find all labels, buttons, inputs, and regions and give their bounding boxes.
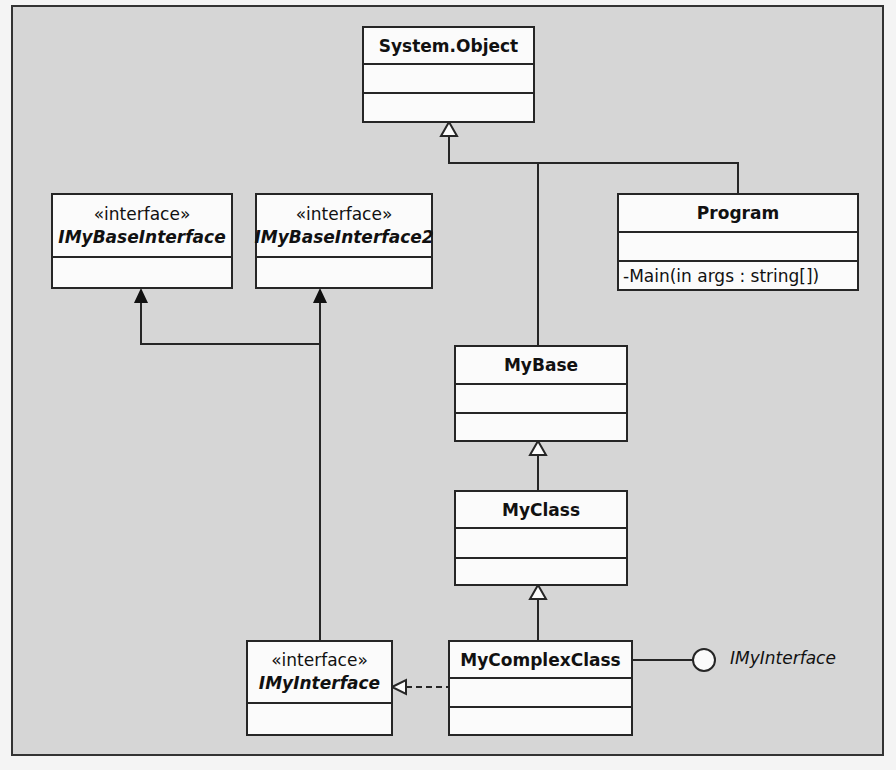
class-system-object[interactable]: System.Object	[362, 26, 535, 123]
class-name: MyComplexClass	[460, 650, 620, 670]
class-mybase[interactable]: MyBase	[454, 345, 628, 442]
attributes-compartment	[364, 65, 533, 94]
operations-compartment	[257, 258, 431, 287]
class-myclass[interactable]: MyClass	[454, 490, 628, 586]
class-name: Program	[697, 203, 779, 223]
operations-compartment	[53, 258, 231, 287]
stereotype-label: «interface»	[271, 649, 368, 671]
hollow-triangle-arrow-icon	[441, 122, 457, 136]
attributes-compartment	[456, 529, 626, 559]
attributes-compartment	[456, 385, 626, 414]
class-name: System.Object	[379, 36, 518, 56]
operations-compartment	[364, 94, 533, 121]
interface-name: IMyInterface	[259, 671, 380, 695]
hollow-triangle-arrow-icon	[530, 441, 546, 455]
class-name: MyBase	[504, 355, 578, 375]
interface-name: IMyBaseInterface2	[254, 225, 433, 249]
lollipop-interface-label: IMyInterface	[730, 648, 836, 668]
attributes-compartment	[619, 233, 857, 262]
interface-imybaseinterface[interactable]: «interface» IMyBaseInterface	[51, 193, 233, 289]
interface-imybaseinterface2[interactable]: «interface» IMyBaseInterface2	[255, 193, 433, 289]
hollow-triangle-arrow-icon	[392, 680, 406, 694]
operations-compartment	[456, 559, 626, 584]
operation-main: -Main(in args : string[])	[619, 262, 857, 289]
stereotype-label: «interface»	[94, 203, 191, 225]
interface-name: IMyBaseInterface	[58, 225, 225, 249]
operations-compartment	[450, 708, 631, 734]
hollow-triangle-arrow-icon	[530, 585, 546, 599]
class-program[interactable]: Program -Main(in args : string[])	[617, 193, 859, 291]
lollipop-interface-icon	[693, 649, 715, 671]
filled-arrow-icon	[134, 288, 148, 303]
stereotype-label: «interface»	[296, 203, 393, 225]
operations-compartment	[248, 704, 391, 734]
filled-arrow-icon	[313, 288, 327, 303]
interface-imyinterface[interactable]: «interface» IMyInterface	[246, 640, 393, 736]
class-name: MyClass	[502, 500, 580, 520]
interface-inheritance-lines	[141, 302, 320, 640]
operations-compartment	[456, 414, 626, 440]
class-mycomplexclass[interactable]: MyComplexClass	[448, 640, 633, 736]
attributes-compartment	[450, 679, 631, 708]
